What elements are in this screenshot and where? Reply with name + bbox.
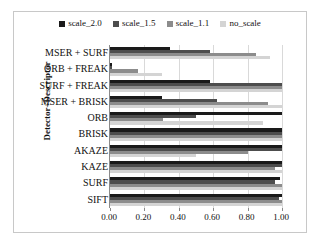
- bar[interactable]: [110, 89, 282, 92]
- bar-group: [110, 94, 282, 110]
- legend-item-no-scale[interactable]: no_scale: [220, 19, 261, 28]
- x-axis-tick-labels: 0.000.200.400.600.801.00: [109, 212, 282, 226]
- y-axis-category-label: SIFT: [34, 192, 108, 208]
- plot-area: [109, 45, 282, 208]
- bar[interactable]: [110, 187, 282, 190]
- chart-legend: scale_2.0 scale_1.5 scale_1.1 no_scale: [14, 19, 306, 28]
- bar-group: [110, 175, 282, 191]
- bar[interactable]: [110, 154, 196, 157]
- x-axis-tick-mark: [144, 208, 145, 211]
- bar-group: [110, 126, 282, 142]
- y-axis-category-label: AKAZE: [34, 143, 108, 159]
- y-axis-category-label: ORB: [34, 110, 108, 126]
- bar-group: [110, 78, 282, 94]
- legend-swatch-scale-1-5: [113, 21, 119, 27]
- legend-item-scale-1-1[interactable]: scale_1.1: [167, 19, 210, 28]
- y-axis-category-label: SURF: [34, 175, 108, 191]
- x-axis-tick-label: 0.20: [136, 212, 152, 222]
- x-axis-tick-mark: [248, 208, 249, 211]
- legend-swatch-no-scale: [220, 21, 226, 27]
- bar-series-container: [110, 45, 282, 208]
- x-axis-tick-label: 0.00: [101, 212, 117, 222]
- x-axis-tick-mark: [179, 208, 180, 211]
- legend-label-scale-2-0: scale_2.0: [68, 19, 102, 28]
- bar-group: [110, 61, 282, 77]
- x-axis-tick-label: 0.60: [204, 212, 220, 222]
- y-axis-category-label: KAZE: [34, 159, 108, 175]
- x-axis-tick-label: 0.40: [170, 212, 186, 222]
- legend-label-scale-1-5: scale_1.5: [122, 19, 156, 28]
- y-axis-category-label: MSER + BRISK: [34, 94, 108, 110]
- y-axis-category-label: ORB + FREAK: [34, 61, 108, 77]
- legend-swatch-scale-1-1: [167, 21, 173, 27]
- y-axis-category-label: SURF + FREAK: [34, 78, 108, 94]
- legend-label-scale-1-1: scale_1.1: [176, 19, 210, 28]
- x-axis-tick-label: 1.00: [273, 212, 289, 222]
- x-axis-tick-mark: [282, 208, 283, 211]
- bar[interactable]: [110, 138, 282, 141]
- bar[interactable]: [110, 105, 282, 108]
- y-axis-category-label: BRISK: [34, 126, 108, 142]
- legend-item-scale-2-0[interactable]: scale_2.0: [59, 19, 102, 28]
- bar[interactable]: [110, 73, 162, 76]
- bar[interactable]: [110, 56, 270, 59]
- legend-label-no-scale: no_scale: [229, 19, 261, 28]
- legend-swatch-scale-2-0: [59, 21, 65, 27]
- bar-group: [110, 159, 282, 175]
- bar-group: [110, 110, 282, 126]
- x-axis-tick-mark: [110, 208, 111, 211]
- y-axis-category-label: MSER + SURF: [34, 45, 108, 61]
- bar[interactable]: [110, 170, 282, 173]
- x-axis-tick-label: 0.80: [239, 212, 255, 222]
- legend-item-scale-1-5[interactable]: scale_1.5: [113, 19, 156, 28]
- bar-group: [110, 192, 282, 208]
- x-axis-tick-mark: [213, 208, 214, 211]
- gridline: [282, 45, 283, 208]
- y-axis-category-labels: MSER + SURFORB + FREAKSURF + FREAKMSER +…: [34, 45, 108, 208]
- bar-group: [110, 143, 282, 159]
- chart-frame: scale_2.0 scale_1.5 scale_1.1 no_scale D…: [13, 11, 307, 233]
- bar-group: [110, 45, 282, 61]
- bar[interactable]: [110, 121, 263, 124]
- bar[interactable]: [110, 203, 282, 206]
